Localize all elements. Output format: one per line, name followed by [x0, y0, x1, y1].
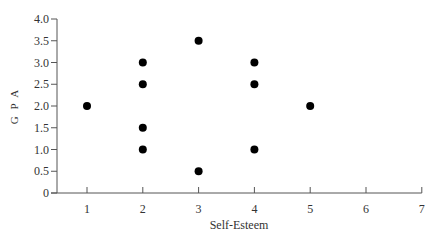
data-point [195, 167, 203, 175]
y-axis-label: G P A [8, 88, 20, 125]
x-axis-label: Self-Esteem [210, 218, 269, 232]
y-tick-label: 0.5 [34, 164, 49, 178]
x-tick-label: 4 [251, 202, 257, 216]
data-point [195, 37, 203, 45]
y-tick-label: 2.0 [34, 99, 49, 113]
data-points [83, 37, 314, 176]
data-point [250, 80, 258, 88]
data-point [250, 59, 258, 67]
y-axis-ticks: 00.51.01.52.02.53.03.54.0 [34, 12, 57, 200]
data-point [139, 80, 147, 88]
data-point [250, 146, 258, 154]
x-tick-label: 3 [196, 202, 202, 216]
data-point [139, 59, 147, 67]
x-axis-ticks: 1234567 [84, 187, 425, 216]
plot-area: 00.51.01.52.02.53.03.54.0 1234567 Self-E… [0, 0, 441, 240]
axes [51, 19, 422, 193]
y-tick-label: 1.5 [34, 121, 49, 135]
data-point [83, 102, 91, 110]
x-tick-label: 5 [307, 202, 313, 216]
x-tick-label: 1 [84, 202, 90, 216]
y-tick-label: 4.0 [34, 12, 49, 26]
y-tick-label: 2.5 [34, 77, 49, 91]
y-tick-label: 0 [43, 186, 49, 200]
data-point [139, 146, 147, 154]
x-tick-label: 6 [363, 202, 369, 216]
x-tick-label: 2 [140, 202, 146, 216]
data-point [306, 102, 314, 110]
scatter-chart: 00.51.01.52.02.53.03.54.0 1234567 Self-E… [0, 0, 441, 240]
y-tick-label: 1.0 [34, 143, 49, 157]
y-tick-label: 3.5 [34, 34, 49, 48]
y-tick-label: 3.0 [34, 56, 49, 70]
x-tick-label: 7 [419, 202, 425, 216]
data-point [139, 124, 147, 132]
